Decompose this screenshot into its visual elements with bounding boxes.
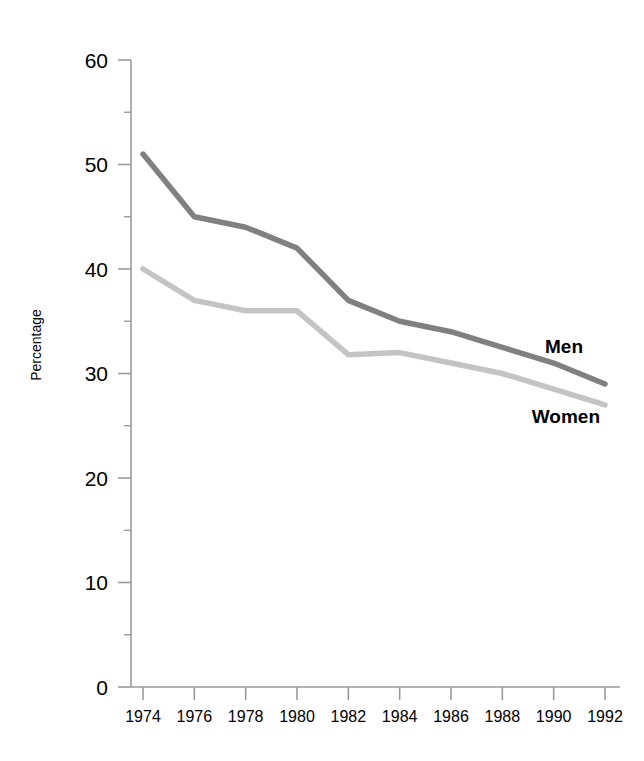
y-axis-title: Percentage — [28, 309, 44, 381]
series-line-women — [143, 269, 605, 405]
series-line-men — [143, 154, 605, 384]
x-axis: 1974197619781980198219841986198819901992 — [125, 687, 623, 725]
x-tick-label: 1976 — [177, 708, 213, 725]
y-axis-tick-labels: 0102030405060 — [85, 49, 108, 699]
x-tick-label: 1990 — [536, 708, 572, 725]
x-tick-label: 1984 — [382, 708, 418, 725]
y-tick-label: 30 — [85, 362, 108, 385]
x-tick-label: 1988 — [485, 708, 521, 725]
y-axis-ticks — [118, 60, 131, 687]
chart-canvas: 0102030405060 19741976197819801982198419… — [0, 0, 644, 761]
line-chart: 0102030405060 19741976197819801982198419… — [0, 0, 644, 761]
x-tick-label: 1978 — [228, 708, 264, 725]
y-axis: 0102030405060 — [85, 49, 131, 699]
x-tick-label: 1974 — [125, 708, 161, 725]
x-axis-tick-labels: 1974197619781980198219841986198819901992 — [125, 708, 623, 725]
y-tick-label: 20 — [85, 467, 108, 490]
x-tick-label: 1986 — [433, 708, 469, 725]
y-tick-label: 10 — [85, 571, 108, 594]
x-tick-label: 1982 — [331, 708, 367, 725]
y-tick-label: 60 — [85, 49, 108, 72]
series-label-men: Men — [545, 336, 583, 357]
x-axis-ticks — [143, 687, 605, 700]
series-label-women: Women — [532, 406, 600, 427]
y-tick-label: 0 — [96, 676, 108, 699]
y-tick-label: 50 — [85, 153, 108, 176]
x-tick-label: 1980 — [279, 708, 315, 725]
x-tick-label: 1992 — [587, 708, 623, 725]
y-tick-label: 40 — [85, 258, 108, 281]
series-annotations: MenWomen — [532, 336, 600, 427]
plot-series — [143, 154, 605, 405]
